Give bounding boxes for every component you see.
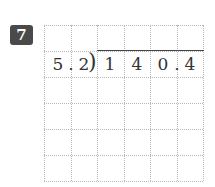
grid-line [44,181,203,182]
dividend-digit: 1 [97,52,123,76]
answer-grid[interactable] [44,25,203,181]
problem-number-badge: 7 [10,25,33,45]
grid-line [44,155,203,156]
dividend-digit: 4 [124,52,150,76]
grid-line [44,77,203,78]
grid-line [44,103,203,104]
division-bracket: ) [88,50,97,76]
grid-line [44,129,203,130]
division-bar [97,50,204,51]
grid-line [203,25,204,181]
grid-line [44,25,203,26]
dividend-digit: 4 [177,52,203,76]
